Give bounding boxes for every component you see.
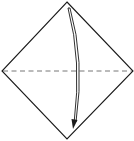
diagram-svg [0, 0, 134, 141]
origami-diagram [0, 0, 134, 141]
paper-square [2, 2, 133, 139]
